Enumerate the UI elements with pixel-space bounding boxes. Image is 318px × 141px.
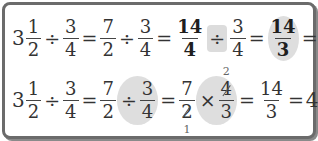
equals-sign: = <box>82 91 98 110</box>
equals-sign: = <box>239 91 255 110</box>
times-sign: × <box>200 91 216 110</box>
fraction-emphasized: 144 <box>175 18 204 59</box>
fraction: 72 <box>100 18 115 59</box>
fraction-cancelled: 721 <box>179 80 194 121</box>
fraction: 143 <box>258 80 285 121</box>
equation-row-1: 3 12 ÷ 34 = 72 ÷ 34 = 144 ÷ 34 = 143 = 4… <box>12 16 318 60</box>
fraction-highlighted: 143 <box>268 16 299 61</box>
fraction: 34 <box>138 18 153 59</box>
mixed-whole: 3 <box>12 90 25 110</box>
equals-sign: = <box>249 29 265 48</box>
divide-sign-highlighted: ÷ <box>207 25 227 52</box>
equals-sign: = <box>160 91 176 110</box>
fraction: 72 <box>100 80 115 121</box>
equation-row-2: 3 12 ÷ 34 = 72 ÷ 34 = 721 × 423 = 143 = … <box>12 78 318 122</box>
fraction: 34 <box>63 18 78 59</box>
equals-sign: = <box>288 91 304 110</box>
cancel-value: 1 <box>183 124 190 135</box>
fraction: 34 <box>63 80 78 121</box>
cancel-value: 2 <box>223 66 230 77</box>
fraction: 34 <box>230 18 245 59</box>
divide-sign: ÷ <box>44 91 60 110</box>
equals-sign: = <box>302 29 318 48</box>
divide-sign: ÷ <box>119 29 135 48</box>
result-whole: 4 <box>306 90 318 110</box>
fraction-cancelled: 423 <box>219 80 234 121</box>
equals-sign: = <box>82 29 98 48</box>
divide-sign: ÷ <box>44 29 60 48</box>
fraction: 34 <box>140 80 155 121</box>
times-highlight-group: × 423 <box>196 76 237 125</box>
mixed-whole: 3 <box>12 28 25 48</box>
equals-sign: = <box>156 29 172 48</box>
divide-sign: ÷ <box>121 91 137 110</box>
mixed-fraction: 12 <box>26 18 41 59</box>
mixed-fraction: 12 <box>26 80 41 121</box>
divide-highlight-group: ÷ 34 <box>117 76 158 125</box>
